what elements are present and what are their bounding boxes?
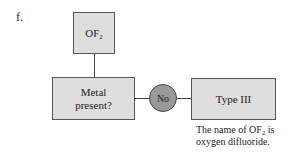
formula-subscript: 2: [99, 33, 103, 41]
caption-line2: oxygen difluoride.: [196, 136, 275, 148]
branch-label: No: [157, 93, 169, 104]
start-node-of2: OF2: [73, 12, 115, 54]
connector-decision-to-branch: [135, 98, 150, 99]
result-label: Type III: [216, 93, 252, 106]
branch-no-circle: No: [149, 84, 177, 112]
item-label: f.: [16, 10, 23, 25]
formula: OF2: [85, 27, 103, 40]
result-node-type-iii: Type III: [191, 78, 276, 120]
connector-start-to-decision: [94, 54, 95, 78]
caption-suffix: is: [265, 124, 274, 135]
decision-line1: Metal: [75, 86, 112, 99]
connector-branch-to-result: [177, 98, 191, 99]
decision-line2: present?: [75, 99, 112, 112]
caption-line1: The name of OF2 is: [196, 124, 275, 136]
result-caption: The name of OF2 is oxygen difluoride.: [196, 124, 275, 148]
decision-node-metal-present: Metal present?: [52, 77, 135, 120]
caption-prefix: The name of OF: [196, 124, 262, 135]
formula-base: OF: [85, 27, 99, 39]
